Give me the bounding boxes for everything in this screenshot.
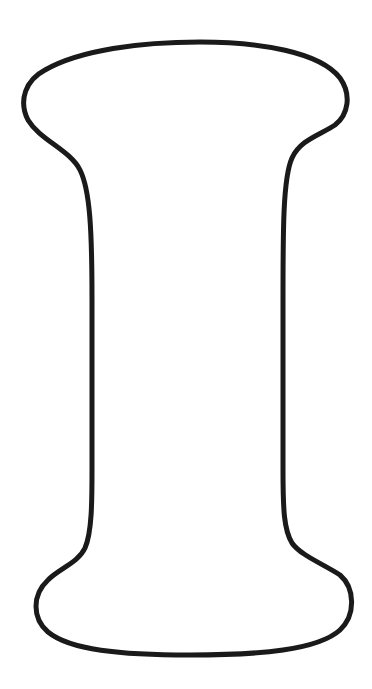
letter-i-path (24, 42, 352, 655)
letter-i-outline-figure: Outline of the letter I (0, 0, 372, 689)
letter-i-outline-icon (0, 0, 372, 689)
